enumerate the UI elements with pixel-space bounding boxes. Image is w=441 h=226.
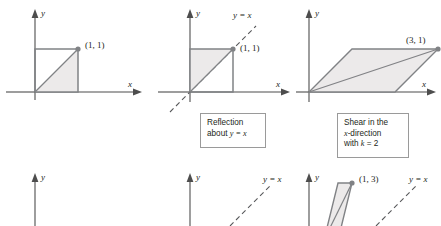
vertex-point-marker	[230, 46, 235, 51]
caption-shear: Shear in the x-direction with k = 2	[337, 113, 409, 158]
point-label-1-1: (1, 1)	[240, 43, 260, 53]
caption-reflection: Reflection about y = x	[200, 113, 266, 148]
parallelogram-outline	[324, 183, 352, 226]
y-axis-arrow	[32, 173, 39, 182]
caption-shear-value: = 2	[364, 139, 378, 148]
vertical-parallelogram-group	[324, 183, 352, 226]
y-axis-arrow	[306, 9, 313, 18]
x-axis-arrow	[133, 89, 142, 96]
point-label-3-1: (3, 1)	[406, 35, 426, 45]
x-axis-label: x	[275, 79, 280, 89]
y-axis-label: y	[40, 172, 45, 182]
caption-shear-direction: -direction	[348, 129, 382, 138]
y-axis-arrow	[306, 173, 313, 182]
caption-shear-line2: x-direction	[344, 129, 403, 140]
dashed-line-y-equals-x	[376, 184, 418, 226]
bottom-right-partial-panel: y (1, 3) y = x	[294, 168, 441, 226]
line-label-y-equals-x: y = x	[262, 174, 282, 184]
bottom-middle-partial-panel: y y = x	[148, 168, 298, 226]
point-label-1-3: (1, 3)	[359, 174, 379, 184]
bottom-left-partial-panel: y	[0, 168, 150, 226]
vertex-point-marker	[75, 46, 80, 51]
y-axis-label: y	[314, 8, 319, 18]
original-triangle-panel: y x (1, 1)	[0, 0, 150, 105]
y-axis-arrow	[187, 173, 194, 182]
line-label-y-equals-x: y = x	[408, 174, 428, 184]
caption-shear-with: with	[344, 139, 361, 148]
x-axis-arrow	[281, 89, 290, 96]
y-axis-label: y	[40, 8, 45, 18]
y-axis-arrow	[32, 9, 39, 18]
caption-reflection-about: about	[207, 129, 230, 138]
x-axis-label: x	[127, 79, 132, 89]
x-axis-label: x	[421, 79, 426, 89]
unit-triangle-group	[35, 49, 78, 92]
y-axis-label: y	[314, 172, 319, 182]
vertex-point-marker	[435, 46, 440, 51]
caption-shear-line3: with k = 2	[344, 139, 403, 150]
y-axis-label: y	[195, 172, 200, 182]
x-axis-arrow	[427, 89, 436, 96]
vertex-point-marker	[349, 180, 354, 185]
parallelogram-group	[309, 49, 438, 92]
transformation-figure: y x (1, 1) y x (1, 1) y = x	[0, 0, 441, 226]
caption-reflection-math: y = x	[230, 129, 247, 138]
line-label-y-equals-x: y = x	[232, 10, 252, 20]
dashed-line-y-equals-x	[230, 184, 272, 226]
caption-reflection-line2: about y = x	[207, 129, 260, 140]
caption-shear-line1: Shear in the	[344, 118, 403, 129]
point-label-1-1: (1, 1)	[85, 40, 105, 50]
caption-reflection-line1: Reflection	[207, 118, 260, 129]
y-axis-label: y	[195, 8, 200, 18]
reflected-triangle-group	[190, 49, 233, 92]
y-axis-arrow	[187, 9, 194, 18]
sheared-parallelogram-panel: y x (3, 1)	[294, 0, 441, 105]
reflected-triangle-panel: y x (1, 1) y = x	[148, 0, 298, 105]
